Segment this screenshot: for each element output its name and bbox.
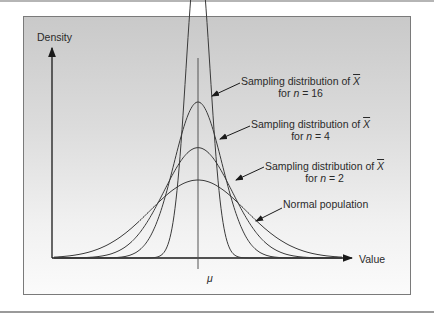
annotation-n16: Sampling distribution of X for n = 16 — [241, 75, 360, 99]
arrow-n16 — [212, 83, 240, 96]
bottom-rule — [0, 311, 434, 313]
arrow-population — [256, 208, 282, 221]
annotation-population: Normal population — [283, 198, 368, 210]
chart-plot — [0, 0, 434, 316]
arrow-n4 — [220, 126, 250, 139]
mean-tick-label: μ — [207, 272, 213, 284]
annotation-n4: Sampling distribution of X for n = 4 — [251, 118, 370, 142]
arrow-n2 — [236, 167, 264, 180]
y-axis-label: Density — [37, 31, 72, 43]
x-axis-label: Value — [359, 253, 385, 265]
annotation-n2: Sampling distribution of X for n = 2 — [265, 160, 384, 184]
